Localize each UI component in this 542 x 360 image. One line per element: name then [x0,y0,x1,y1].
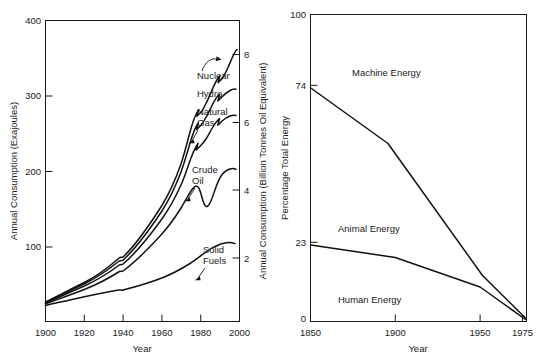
left-xtick-1980: 1980 [190,327,211,338]
figure-background [0,0,542,360]
left-ytick-400: 400 [25,15,41,26]
label-human-energy: Human Energy [338,294,402,305]
left-panel-y2tick-4: 4 [244,185,249,196]
left-panel-y2tick-2: 2 [244,253,249,264]
left-xtick-1960: 1960 [151,327,172,338]
left-ytick-300: 300 [25,90,41,101]
figure-canvas: 400 300 200 100 8 6 4 2 [0,0,542,360]
label-solid-fuels-line2: Fuels [203,255,226,266]
right-xtick-1950: 1950 [470,327,491,338]
right-yaxis-title: Percentage Total Energy [279,116,290,220]
left-yaxis-title: Annual Consumption (Exajoules) [8,102,19,240]
right-ytick-23: 23 [295,237,306,248]
left-ytick-100: 100 [25,241,41,252]
two-panel-energy-figure: 400 300 200 100 8 6 4 2 [0,0,542,360]
left-xtick-1900: 1900 [35,327,56,338]
label-nuclear: Nuclear [197,70,230,81]
right-xtick-1900: 1900 [385,327,406,338]
right-ytick-100: 100 [290,9,306,20]
label-natural-gas-line1: Natural [197,106,228,117]
right-xtick-1975: 1975 [512,327,533,338]
left-ytick-200: 200 [25,166,41,177]
left-xtick-1920: 1920 [74,327,95,338]
right-ytick-74: 74 [295,80,306,91]
label-hydro: Hydro [197,88,222,99]
label-natural-gas-line2: Gas [197,117,215,128]
label-solid-fuels-line1: Solid [203,244,224,255]
label-crude-oil-line2: Oil [192,175,204,186]
left-xtick-2000: 2000 [229,327,250,338]
left-y2axis-title: Annual Consumption (Billion Tonnes Oil E… [257,63,268,280]
right-xaxis-title: Year [408,343,427,354]
left-panel-y2tick-8: 8 [244,49,249,60]
right-xtick-1850: 1850 [300,327,321,338]
right-ytick-0: 0 [301,313,306,324]
label-animal-energy: Animal Energy [338,223,400,234]
label-crude-oil-line1: Crude [192,164,218,175]
left-xaxis-title: Year [132,343,151,354]
left-panel-y2tick-6: 6 [244,117,249,128]
label-machine-energy: Machine Energy [352,67,421,78]
left-xtick-1940: 1940 [113,327,134,338]
